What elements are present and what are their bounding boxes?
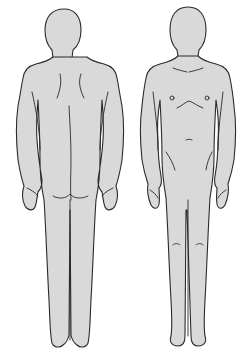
back-view-figure (17, 9, 124, 347)
body-diagram: Posterior view Anterior view (0, 0, 250, 353)
front-head (170, 7, 206, 63)
front-view-figure (141, 7, 236, 346)
back-head (45, 9, 81, 63)
